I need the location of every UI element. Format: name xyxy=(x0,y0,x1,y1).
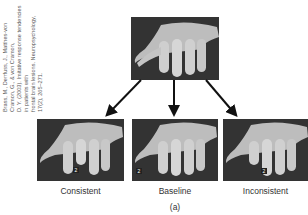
arrow-right xyxy=(206,80,235,114)
finger-marker: 2 xyxy=(261,168,267,174)
finger-marker: 2 xyxy=(73,167,79,173)
citation-text: Brass, M., Derrfuss, J., Matthes-von Cra… xyxy=(2,0,44,112)
citation-line: D. Y. (2003). Imitative response tendenc… xyxy=(16,0,30,112)
baseline-photo: 2 xyxy=(132,119,218,181)
citation-line: frontal brain lesions. Neuropsychology, … xyxy=(30,0,44,112)
figure-caption: (a) xyxy=(132,202,218,212)
arrow-left xyxy=(108,80,141,114)
hand-image xyxy=(37,119,124,181)
label-baseline: Baseline xyxy=(132,186,218,196)
finger-marker: 2 xyxy=(136,168,142,174)
citation-line: Brass, M., Derrfuss, J., Matthes-von Cra… xyxy=(2,0,16,112)
label-inconsistent: Inconsistent xyxy=(223,186,308,196)
hand-image xyxy=(131,17,219,80)
inconsistent-photo: 2 xyxy=(223,119,308,181)
hand-image xyxy=(132,119,218,181)
label-consistent: Consistent xyxy=(37,186,124,196)
consistent-photo: 2 xyxy=(37,119,124,181)
citation: Brass, M., Derrfuss, J., Matthes-von Cra… xyxy=(2,0,54,112)
top-hand-photo xyxy=(131,17,219,80)
